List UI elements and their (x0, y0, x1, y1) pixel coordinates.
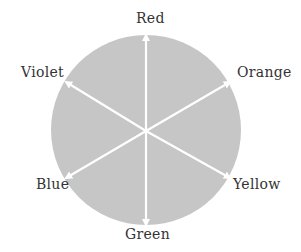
color-wheel (0, 0, 301, 252)
label-violet: Violet (21, 64, 64, 80)
label-orange: Orange (237, 64, 292, 80)
label-yellow: Yellow (233, 176, 280, 192)
label-blue: Blue (36, 176, 69, 192)
label-green: Green (125, 226, 170, 242)
label-red: Red (136, 10, 165, 26)
